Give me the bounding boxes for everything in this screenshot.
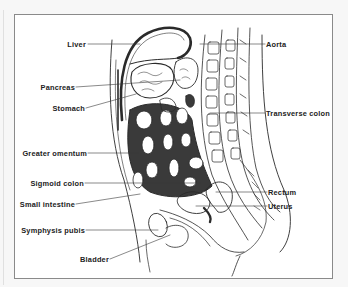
anatomy-illustration [0,0,348,287]
label-stomach: Stomach [52,104,85,113]
label-sigmoid-colon: Sigmoid colon [30,179,84,188]
label-bladder: Bladder [80,255,109,264]
label-pancreas: Pancreas [41,83,75,92]
label-greater-omentum: Greater omentum [22,149,87,158]
label-symphysis-pubis: Symphysis pubis [21,226,85,235]
label-transverse-colon: Transverse colon [266,109,330,118]
label-small-intestine: Small intestine [20,200,75,209]
label-rectum: Rectum [268,188,296,197]
label-aorta: Aorta [266,40,286,49]
label-liver: Liver [67,40,86,49]
label-uterus: Uterus [268,202,293,211]
